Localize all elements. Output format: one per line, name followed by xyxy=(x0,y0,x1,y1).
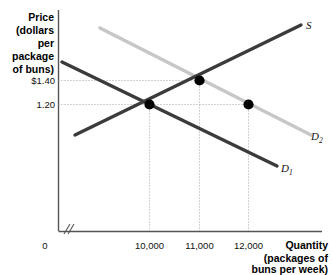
point-quantity-demanded-at-old-price xyxy=(243,99,253,109)
axis-break-icon xyxy=(64,224,74,234)
y-axis-title-line-5: of buns) xyxy=(13,63,54,75)
curve-label-d2-subscript: 2 xyxy=(319,136,323,145)
y-axis-title-line-1: Price xyxy=(28,11,54,23)
x-tick-label-11000: 11,000 xyxy=(185,240,213,251)
y-axis-title-line-4: package xyxy=(12,50,54,62)
y-tick-label-120: 1.20 xyxy=(37,99,56,110)
y-axis-title: Price (dollars per package of buns) xyxy=(12,11,54,75)
curves xyxy=(62,25,311,166)
supply-curve-s xyxy=(75,25,301,135)
origin-label: 0 xyxy=(42,240,47,251)
curve-label-d1-subscript: 1 xyxy=(289,168,293,177)
curve-label-d1: D xyxy=(280,162,289,174)
y-axis-title-line-3: per xyxy=(38,37,54,49)
y-tick-labels: $1.40 1.20 xyxy=(31,75,55,110)
curve-labels: S D 2 D 1 xyxy=(280,19,323,177)
x-tick-label-10000: 10,000 xyxy=(135,240,164,251)
y-axis-title-line-2: (dollars xyxy=(16,24,54,36)
point-equilibrium-original xyxy=(144,99,154,109)
x-axis-title: Quantity (packages of buns per week) xyxy=(252,239,329,275)
x-tick-label-12000: 12,000 xyxy=(234,240,263,251)
x-tick-labels: 10,000 11,000 12,000 0 xyxy=(42,240,263,251)
supply-demand-chart: S D 2 D 1 $1.40 1.20 10,000 11,000 12,00… xyxy=(0,0,332,275)
curve-label-s: S xyxy=(306,19,312,31)
x-axis-title-line-3: buns per week) xyxy=(252,263,328,275)
y-tick-label-140: $1.40 xyxy=(31,75,55,86)
demand-curve-d1 xyxy=(62,62,277,166)
demand-curve-d2 xyxy=(100,28,311,135)
curve-label-d2: D xyxy=(310,130,319,142)
point-equilibrium-new xyxy=(194,75,204,85)
x-axis-title-line-1: Quantity xyxy=(285,239,328,251)
